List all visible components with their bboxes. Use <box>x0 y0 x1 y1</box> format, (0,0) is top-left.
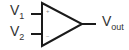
label-subscript: out <box>111 22 124 32</box>
input-label-v1: V1 <box>10 3 24 19</box>
label-main: V <box>102 13 111 29</box>
minus-terminal-icon: − <box>46 33 50 39</box>
label-main: V <box>10 2 19 18</box>
label-main: V <box>10 23 19 39</box>
label-subscript: 2 <box>19 32 24 42</box>
input-label-v2: V2 <box>10 24 24 40</box>
output-label-vout: Vout <box>102 14 124 30</box>
plus-terminal-icon: + <box>46 8 50 14</box>
label-subscript: 1 <box>19 11 24 21</box>
